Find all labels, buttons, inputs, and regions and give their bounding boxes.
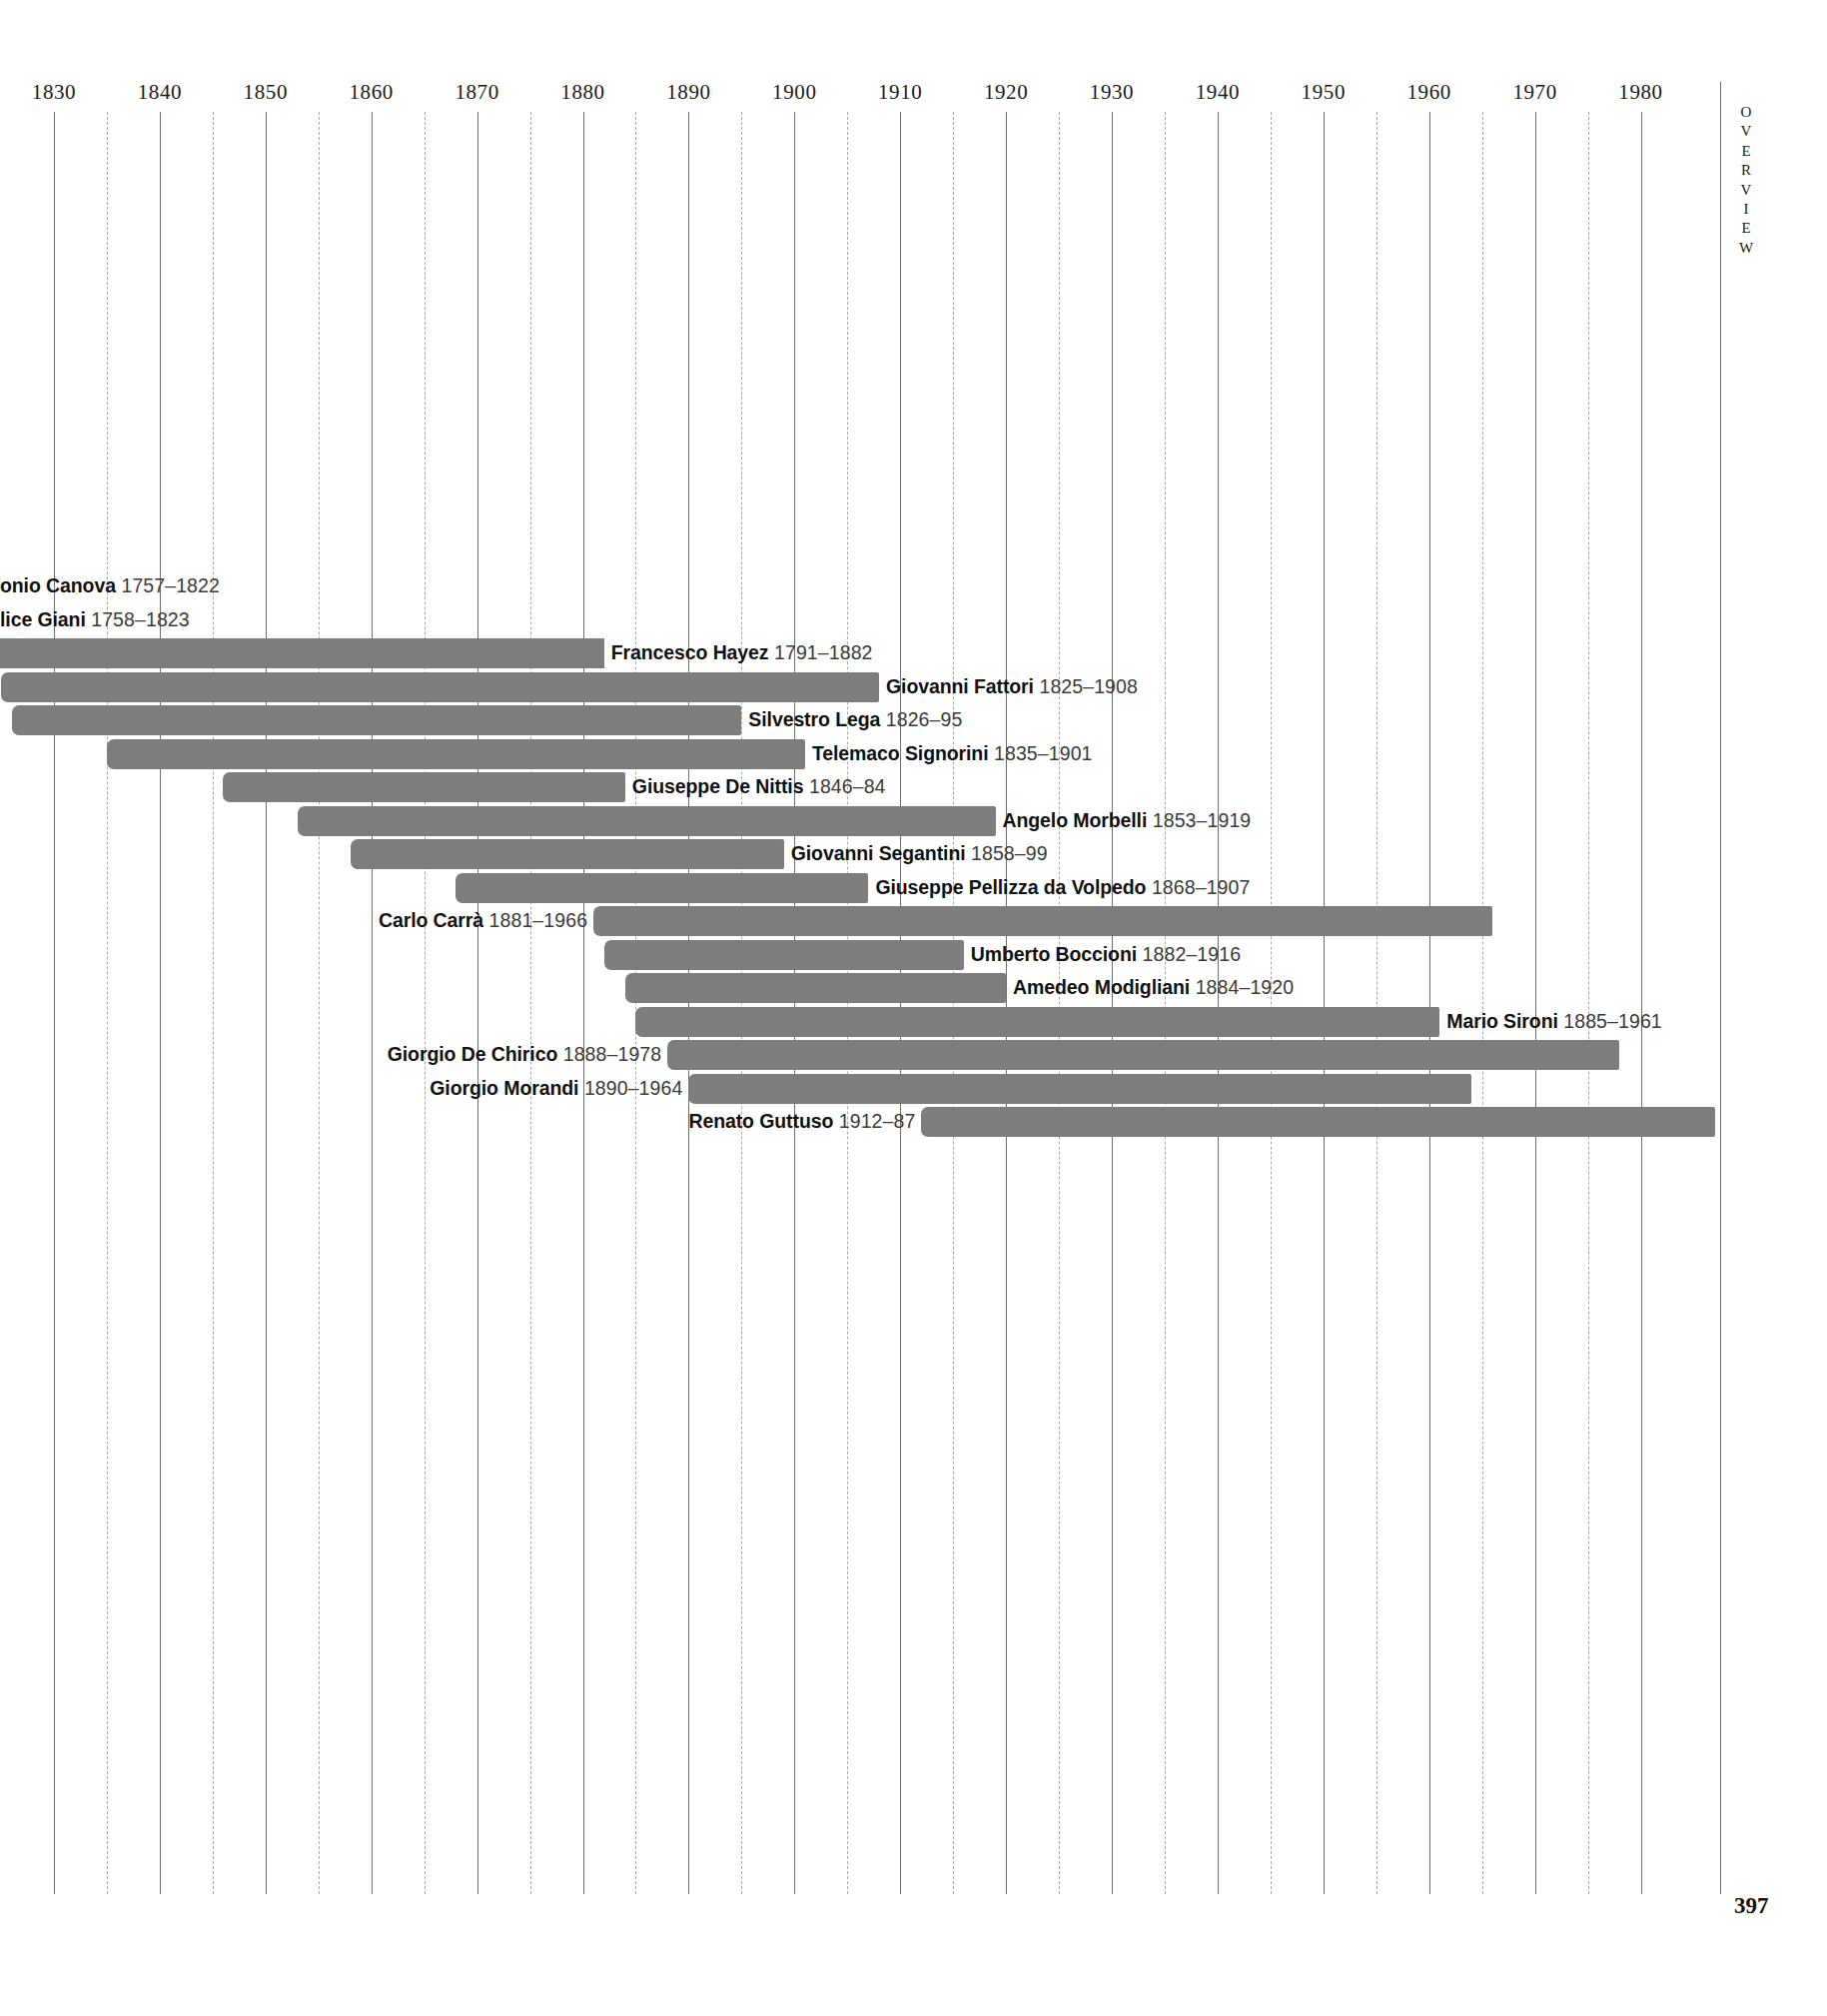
timeline-row: Giovanni Segantini 1858–99	[0, 839, 1710, 869]
lifespan-bar[interactable]	[604, 940, 964, 970]
lifespan-bar[interactable]	[1, 672, 879, 702]
gridline-minor-1865	[425, 112, 426, 1894]
x-tick-1920: 1920	[984, 80, 1028, 105]
lifespan-bar[interactable]	[298, 806, 996, 836]
x-tick-1910: 1910	[878, 80, 922, 105]
lifespan-bar[interactable]	[635, 1007, 1439, 1037]
artist-dates: 1825–1908	[1034, 675, 1138, 697]
artist-name: Mario Sironi	[1446, 1010, 1557, 1032]
artist-name: Angelo Morbelli	[1003, 809, 1148, 831]
x-tick-1870: 1870	[455, 80, 498, 105]
gridline-major-1960	[1429, 112, 1430, 1894]
x-tick-1880: 1880	[560, 80, 604, 105]
artist-dates: 1882–1916	[1137, 943, 1241, 965]
artist-dates: 1858–99	[966, 842, 1048, 864]
gridline-major-1850	[266, 112, 267, 1894]
lifespan-bar[interactable]	[593, 906, 1492, 936]
gridline-major-1920	[1006, 112, 1007, 1894]
lifespan-label: Giovanni Segantini 1858–99	[791, 844, 1048, 864]
artist-name: Francesco Hayez	[611, 641, 769, 663]
artist-dates: 1846–84	[803, 775, 885, 797]
artist-name: Giovanni Fattori	[886, 675, 1034, 697]
lifespan-bar[interactable]	[107, 739, 805, 769]
artist-dates: 1912–87	[833, 1110, 915, 1132]
gridline-major-1980	[1641, 112, 1642, 1894]
gridline-major-1950	[1324, 112, 1325, 1894]
gridline-minor-1975	[1588, 112, 1589, 1894]
gridline-major-1940	[1218, 112, 1219, 1894]
lifespan-label: Carlo Carrà 1881–1966	[379, 911, 587, 931]
timeline-row: Giovanni Fattori 1825–1908	[0, 672, 1710, 702]
page-number: 397	[1734, 1893, 1769, 1919]
gridline-major-1830	[54, 112, 55, 1894]
gridline-minor-1965	[1482, 112, 1483, 1894]
artist-name: lice Giani	[0, 608, 86, 630]
gridline-major-1930	[1112, 112, 1113, 1894]
artist-dates: 1868–1907	[1146, 876, 1250, 898]
timeline-row: Giorgio Morandi 1890–1964	[0, 1074, 1710, 1104]
artist-name: Carlo Carrà	[379, 909, 483, 931]
gridline-major-1890	[688, 112, 689, 1894]
lifespan-bar[interactable]	[223, 772, 624, 802]
artist-dates: 1890–1964	[578, 1077, 682, 1099]
gridline-major-1840	[160, 112, 161, 1894]
artist-name: Giorgio De Chirico	[388, 1043, 557, 1065]
axis-right-edge	[1720, 82, 1721, 1894]
x-tick-1860: 1860	[349, 80, 393, 105]
timeline-row: Silvestro Lega 1826–95	[0, 705, 1710, 735]
gridline-minor-1875	[530, 112, 531, 1894]
lifespan-bar[interactable]	[667, 1040, 1619, 1070]
timeline-row: Amedeo Modigliani 1884–1920	[0, 973, 1710, 1003]
lifespan-bar[interactable]	[921, 1107, 1714, 1137]
x-tick-1850: 1850	[244, 80, 288, 105]
lifespan-label: lice Giani 1758–1823	[0, 610, 190, 630]
artist-dates: 1884–1920	[1190, 976, 1294, 998]
running-head-overview: OVERVIEW	[1737, 104, 1754, 259]
gridline-major-1970	[1535, 112, 1536, 1894]
artist-dates: 1835–1901	[989, 742, 1093, 764]
lifespan-label: Silvestro Lega 1826–95	[748, 710, 962, 730]
timeline-row: Francesco Hayez 1791–1882	[0, 638, 1710, 668]
timeline-row: lice Giani 1758–1823	[0, 605, 1710, 635]
gridline-minor-1855	[319, 112, 320, 1894]
lifespan-bar[interactable]	[0, 638, 604, 668]
lifespan-label: Umberto Boccioni 1882–1916	[971, 945, 1241, 965]
artist-name: Giuseppe Pellizza da Volpedo	[875, 876, 1146, 898]
gridline-major-1900	[794, 112, 795, 1894]
timeline-page: 1830184018501860187018801890190019101920…	[0, 0, 1827, 2016]
lifespan-bar[interactable]	[625, 973, 1006, 1003]
artist-dates: 1888–1978	[557, 1043, 661, 1065]
lifespan-label: Angelo Morbelli 1853–1919	[1003, 811, 1252, 831]
x-tick-1980: 1980	[1618, 80, 1662, 105]
x-tick-1890: 1890	[666, 80, 710, 105]
gridline-minor-1945	[1271, 112, 1272, 1894]
timeline-row: Angelo Morbelli 1853–1919	[0, 806, 1710, 836]
lifespan-bar[interactable]	[688, 1074, 1471, 1104]
timeline-row: Telemaco Signorini 1835–1901	[0, 739, 1710, 769]
artist-name: Giovanni Segantini	[791, 842, 966, 864]
x-tick-1960: 1960	[1406, 80, 1450, 105]
artist-name: onio Canova	[0, 574, 116, 596]
x-tick-1950: 1950	[1302, 80, 1346, 105]
gridline-minor-1915	[953, 112, 954, 1894]
artist-name: Silvestro Lega	[748, 708, 880, 730]
lifespan-bar[interactable]	[12, 705, 742, 735]
timeline-row: Giuseppe De Nittis 1846–84	[0, 772, 1710, 802]
lifespan-bar[interactable]	[351, 839, 784, 869]
artist-dates: 1757–1822	[116, 574, 220, 596]
timeline-row: Giorgio De Chirico 1888–1978	[0, 1040, 1710, 1070]
gridline-minor-1905	[847, 112, 848, 1894]
gridline-minor-1935	[1165, 112, 1166, 1894]
lifespan-label: Renato Guttuso 1912–87	[688, 1112, 915, 1132]
x-tick-1830: 1830	[32, 80, 76, 105]
lifespan-bar[interactable]	[456, 873, 868, 903]
lifespan-label: Francesco Hayez 1791–1882	[611, 643, 873, 663]
lifespan-label: onio Canova 1757–1822	[0, 576, 220, 596]
gridline-minor-1895	[741, 112, 742, 1894]
timeline-row: Umberto Boccioni 1882–1916	[0, 940, 1710, 970]
timeline-plot-area: onio Canova 1757–1822lice Giani 1758–182…	[0, 112, 1710, 1894]
artist-dates: 1826–95	[880, 708, 962, 730]
lifespan-label: Giovanni Fattori 1825–1908	[886, 677, 1138, 697]
lifespan-label: Giuseppe De Nittis 1846–84	[632, 777, 886, 797]
artist-name: Giuseppe De Nittis	[632, 775, 804, 797]
